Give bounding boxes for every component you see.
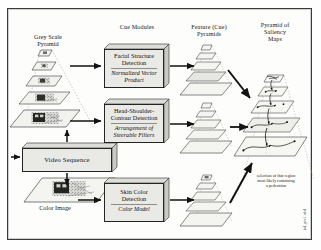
video-sequence-label: Video Sequence <box>44 156 89 163</box>
label-color-image: Color Image <box>24 204 86 211</box>
label-grey-scale-pyramid: Grey Scale Pyramid <box>17 33 79 48</box>
cue-method-headshoulder: Arrangement of Steerable Filters <box>105 125 163 139</box>
cue-method-skincolor-line1: Color Model <box>105 206 163 213</box>
cue-title-headshoulder-line1: Head-Shoulder- <box>105 107 163 114</box>
cue-method-facial: Normalized Vector Product <box>105 70 163 84</box>
cue-divider-facial <box>111 68 157 69</box>
figure-root: Cue Modules Feature (Cue) Pyramids Pyram… <box>0 0 321 250</box>
cue-title-headshoulder: Head-Shoulder- Contour Detection <box>105 105 163 122</box>
cue-title-headshoulder-line2: Contour Detection <box>105 114 163 121</box>
cue-title-skincolor-line1: Skin Color <box>105 188 163 195</box>
cue-module-facial-structure[interactable]: Facial Structure Detection Normalized Ve… <box>104 49 164 88</box>
cue-title-facial-line1: Facial Structure <box>105 52 163 59</box>
cue-title-skincolor-line2: Detection <box>105 195 163 202</box>
video-sequence-box[interactable]: Video Sequence <box>22 148 112 172</box>
heading-feature-line1: Feature (Cue) <box>180 24 238 31</box>
label-grey-line2: Pyramid <box>17 40 79 47</box>
cue-divider-headshoulder <box>111 123 157 124</box>
label-color-image-text: Color Image <box>39 204 71 211</box>
figure-side-code: ial_prv1.cdsl <box>303 209 307 230</box>
heading-saliency-pyramid: Pyramid of Saliency Maps <box>246 22 304 43</box>
heading-cue-modules: Cue Modules <box>104 24 170 31</box>
cue-title-skincolor: Skin Color Detection <box>105 184 163 203</box>
heading-saliency-line2: Saliency <box>246 29 304 36</box>
cue-method-headshoulder-line1: Arrangement of <box>105 125 163 132</box>
cue-method-facial-line2: Product <box>105 77 163 84</box>
caption-line3: a pedestrian <box>238 183 314 188</box>
cue-method-skincolor: Color Model <box>105 206 163 213</box>
cue-module-head-shoulder[interactable]: Head-Shoulder- Contour Detection Arrange… <box>104 104 164 143</box>
cue-method-headshoulder-line2: Steerable Filters <box>105 132 163 139</box>
label-grey-line1: Grey Scale <box>17 33 79 40</box>
saliency-caption: selection of that region most likely con… <box>238 173 314 188</box>
figure-side-code-text: ial_prv1.cdsl <box>303 209 307 230</box>
heading-saliency-line3: Maps <box>246 36 304 43</box>
heading-feature-pyramids: Feature (Cue) Pyramids <box>180 24 238 38</box>
cue-module-skin-color[interactable]: Skin Color Detection Color Model <box>104 183 164 222</box>
heading-saliency-line1: Pyramid of <box>246 22 304 29</box>
cue-divider-skincolor <box>111 204 157 205</box>
heading-feature-line2: Pyramids <box>180 31 238 38</box>
cue-title-facial: Facial Structure Detection <box>105 50 163 67</box>
cue-title-facial-line2: Detection <box>105 59 163 66</box>
cue-method-facial-line1: Normalized Vector <box>105 70 163 77</box>
